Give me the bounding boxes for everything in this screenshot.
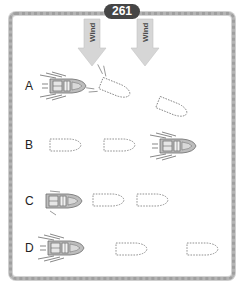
row-c-boat: [46, 191, 82, 215]
page-number-badge: 261: [104, 4, 140, 19]
row-b-boat: [150, 132, 196, 160]
row-c-ghost-1: [93, 194, 124, 206]
wind-arrow-2: Wind: [131, 19, 159, 66]
wind-label-1: Wind: [88, 22, 97, 42]
wind-label-2: Wind: [141, 22, 150, 42]
row-a-ghost-1: [85, 63, 136, 107]
scene-illustration: Wind Wind: [0, 0, 240, 289]
row-d-ghost-1: [116, 243, 147, 255]
row-b-ghost-1: [50, 139, 81, 151]
row-c-ghost-2: [137, 194, 168, 206]
row-b-ghost-2: [104, 139, 135, 151]
row-d-boat: [38, 234, 84, 262]
wind-arrow-1: Wind: [78, 19, 106, 66]
row-a-ghost-2: [156, 96, 189, 119]
row-d-ghost-2: [187, 243, 218, 255]
row-a-boat: [40, 72, 86, 100]
